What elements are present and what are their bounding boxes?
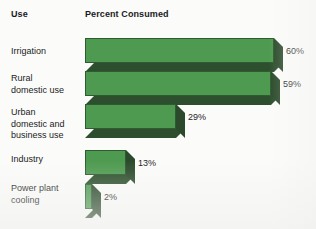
value-label-industry: 13% — [138, 158, 156, 168]
bar-bottom-face — [85, 129, 185, 138]
bar-power-plant-cooling — [85, 184, 92, 209]
column-header-percent-consumed: Percent Consumed — [85, 9, 169, 19]
category-label-urban-domestic-and-business-use: Urban domestic and business use — [11, 107, 65, 142]
bar-front-face — [85, 150, 126, 175]
column-header-use: Use — [11, 9, 28, 19]
value-label-power-plant-cooling: 2% — [104, 192, 117, 202]
category-label-rural-domestic-use: Rural domestic use — [11, 73, 64, 96]
bar-rural-domestic-use — [85, 71, 271, 96]
bar-irrigation — [85, 38, 274, 63]
bar-urban-domestic-and-business-use — [85, 104, 176, 129]
bar-front-face — [85, 184, 92, 209]
bar-industry — [85, 150, 126, 175]
category-label-industry: Industry — [11, 154, 43, 166]
category-label-irrigation: Irrigation — [11, 46, 46, 58]
bar-front-face — [85, 38, 274, 63]
category-label-power-plant-cooling: Power plant cooling — [11, 183, 59, 206]
bar-front-face — [85, 104, 176, 129]
value-label-rural-domestic-use: 59% — [283, 79, 301, 89]
value-label-irrigation: 60% — [286, 46, 304, 56]
value-label-urban-domestic-and-business-use: 29% — [188, 112, 206, 122]
bar-front-face — [85, 71, 271, 96]
percent-consumed-bar-chart: Use Percent Consumed Irrigation Rural do… — [0, 0, 316, 229]
